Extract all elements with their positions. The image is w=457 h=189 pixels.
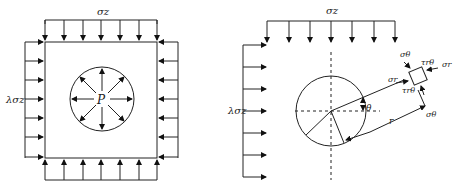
- right-side-load-label: λσz: [227, 105, 247, 116]
- right-top-load-arrows: [267, 21, 395, 42]
- bottom-load-arrows: [45, 160, 157, 180]
- right-left-load-arrows: [243, 45, 266, 177]
- tau-top-label: τrθ: [421, 58, 434, 67]
- left-load-arrows: [25, 42, 43, 157]
- right-diagram: [243, 21, 438, 180]
- radius-r-label: r: [389, 116, 394, 126]
- tau-bottom-label: τrθ: [402, 86, 415, 95]
- right-top-load-label: σz: [326, 5, 339, 16]
- sigma-theta-top-label: σθ: [400, 50, 410, 59]
- internal-pressure-label: P: [96, 93, 106, 107]
- top-load-arrows: [45, 20, 157, 40]
- sigma-r-left-label: σr: [388, 75, 398, 84]
- right-load-arrows: [159, 42, 178, 157]
- angle-theta-label: θ: [366, 103, 372, 113]
- left-top-load-label: σz: [97, 6, 110, 17]
- sigma-theta-bottom-label: σθ: [426, 110, 436, 119]
- sigma-r-right-label: σr: [442, 60, 452, 69]
- left-side-load-label: λσz: [5, 94, 25, 105]
- stress-element: [409, 67, 427, 85]
